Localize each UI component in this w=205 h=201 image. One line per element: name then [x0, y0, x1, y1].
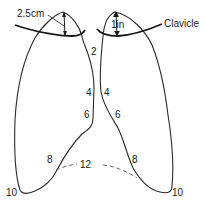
right-rib-8-label: 8: [132, 155, 138, 165]
left-apex-leader-line: [48, 15, 64, 26]
left-rib-4-label: 4: [86, 88, 92, 98]
right-rib-6-label: 6: [115, 110, 121, 120]
right-apex-height-label: 1in: [111, 20, 124, 30]
right-clavicle: [97, 24, 162, 36]
right-rib-4-label: 4: [104, 88, 110, 98]
left-rib-10-label: 10: [6, 188, 17, 198]
lung-outline-drawing: [0, 0, 205, 201]
left-clavicle: [15, 25, 85, 36]
right-apex-arrowhead-up: [113, 11, 119, 17]
clavicle-label: Clavicle: [164, 19, 199, 29]
right-lung-outline: [100, 12, 173, 193]
lung-surface-diagram: 2.5cm 1in Clavicle 2 4 6 8 10 4 6 8 10 1…: [0, 0, 205, 201]
left-rib-8-label: 8: [47, 155, 53, 165]
left-rib-6-label: 6: [84, 110, 90, 120]
pleura-dashed-line-right: [103, 165, 137, 178]
left-apex-height-label: 2.5cm: [17, 9, 44, 19]
pleura-rib-12-label: 12: [80, 160, 91, 170]
right-rib-10-label: 10: [172, 188, 183, 198]
left-rib-2-label: 2: [91, 47, 97, 57]
